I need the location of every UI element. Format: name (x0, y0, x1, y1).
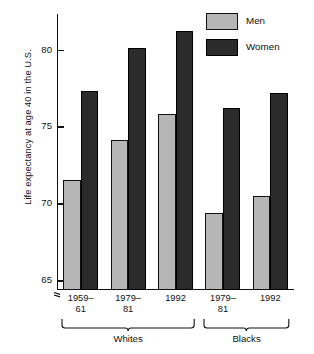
y-axis-line (57, 14, 58, 290)
legend-swatch-women (206, 39, 238, 56)
group-label-blacks: Blacks (232, 333, 260, 344)
x-tick-label-0: 1959–61 (68, 293, 94, 316)
bar-blacks-197981-men (205, 213, 223, 291)
x-tick-line: 1979– (210, 293, 236, 304)
y-tick-label-70: 70 (41, 198, 52, 209)
x-tick-label-2: 1992 (165, 293, 186, 304)
x-tick-label-3: 1979–81 (210, 293, 236, 316)
bar-blacks-197981-women (223, 108, 241, 290)
legend-swatch-men (206, 13, 238, 30)
brace-blacks (203, 319, 290, 332)
x-tick-line: 1959– (68, 293, 94, 304)
legend-item-women: Women (206, 39, 310, 59)
y-axis-label: Life expectancy at age 40 in the U.S. (23, 27, 33, 227)
bar-blacks-1992-women (270, 93, 288, 290)
legend: Men Women (206, 13, 310, 65)
y-tick-label-80: 80 (41, 44, 52, 55)
bar-whites-197981-men (111, 140, 129, 290)
bar-whites-1992-men (158, 114, 176, 290)
bar-whites-1992-women (176, 31, 194, 290)
bar-chart: Life expectancy at age 40 in the U.S. 65… (0, 0, 314, 354)
x-tick-label-4: 1992 (260, 293, 281, 304)
brace-whites (61, 319, 195, 332)
x-tick-label-1: 1979–81 (115, 293, 141, 316)
legend-label-women: Women (246, 41, 280, 52)
y-tick-75: 75 (57, 126, 64, 127)
group-label-whites: Whites (113, 333, 142, 344)
x-tick-line: 61 (68, 304, 94, 315)
y-tick-80: 80 (57, 50, 64, 51)
x-tick-line: 1992 (165, 293, 186, 304)
y-tick-label-65: 65 (41, 274, 52, 285)
legend-label-men: Men (246, 15, 265, 26)
legend-item-men: Men (206, 13, 310, 33)
y-tick-label-75: 75 (41, 121, 52, 132)
x-tick-line: 1979– (115, 293, 141, 304)
bar-whites-195961-men (63, 180, 81, 290)
bar-whites-197981-women (128, 48, 146, 290)
x-tick-line: 81 (210, 304, 236, 315)
bar-whites-195961-women (81, 91, 99, 290)
x-tick-line: 81 (115, 304, 141, 315)
x-tick-line: 1992 (260, 293, 281, 304)
bar-blacks-1992-men (253, 196, 271, 290)
